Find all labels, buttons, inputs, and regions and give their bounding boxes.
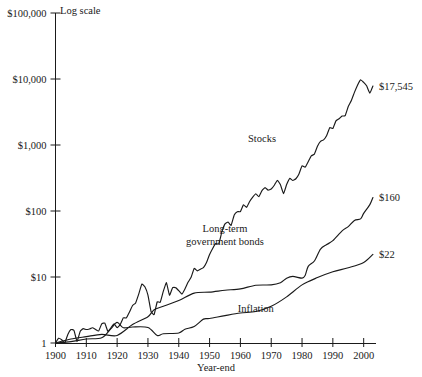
series-line-bonds bbox=[56, 198, 373, 343]
end-value-inflation: $22 bbox=[379, 249, 395, 260]
x-tick-label: 1920 bbox=[107, 350, 128, 361]
x-tick-label: 1910 bbox=[76, 350, 97, 361]
y-axis: $100,000$10,000$1,000$100$101 bbox=[7, 8, 60, 349]
y-tick-label: $100 bbox=[26, 206, 47, 217]
y-tick-label: 1 bbox=[41, 338, 46, 349]
chart-container: $100,000$10,000$1,000$100$101 1900191019… bbox=[0, 0, 422, 377]
x-tick-label: 1990 bbox=[322, 350, 343, 361]
x-tick-label: 1940 bbox=[168, 350, 189, 361]
y-axis-tick-labels: $100,000$10,000$1,000$100$101 bbox=[7, 8, 46, 349]
x-tick-label: 1950 bbox=[199, 350, 220, 361]
series-label-bonds-line1: Long-term bbox=[203, 223, 248, 234]
x-axis-title: Year-end bbox=[197, 362, 236, 373]
x-axis: 1900191019201930194019501960197019801990… bbox=[45, 338, 376, 361]
x-tick-label: 1960 bbox=[230, 350, 251, 361]
y-tick-label: $10,000 bbox=[12, 74, 46, 85]
series-label-inflation: Inflation bbox=[238, 303, 275, 314]
log-scale-note: Log scale bbox=[60, 5, 101, 16]
x-tick-label: 1930 bbox=[137, 350, 158, 361]
x-tick-label: 1980 bbox=[292, 350, 313, 361]
series-label-stocks: Stocks bbox=[248, 133, 276, 144]
y-tick-label: $1,000 bbox=[18, 140, 47, 151]
x-tick-label: 1970 bbox=[261, 350, 282, 361]
y-tick-label: $10 bbox=[31, 272, 47, 283]
series-line-inflation bbox=[56, 254, 373, 343]
series-line-stocks bbox=[56, 80, 373, 343]
x-axis-ticks bbox=[56, 338, 364, 347]
x-tick-label: 2000 bbox=[353, 350, 374, 361]
series-label-bonds-line2: government bonds bbox=[186, 236, 264, 247]
end-value-stocks: $17,545 bbox=[379, 81, 413, 92]
growth-of-one-dollar-log-chart: $100,000$10,000$1,000$100$101 1900191019… bbox=[0, 0, 422, 377]
x-axis-tick-labels: 1900191019201930194019501960197019801990… bbox=[45, 350, 374, 361]
end-value-bonds: $160 bbox=[379, 192, 400, 203]
x-tick-label: 1900 bbox=[45, 350, 66, 361]
y-tick-label: $100,000 bbox=[7, 8, 46, 19]
